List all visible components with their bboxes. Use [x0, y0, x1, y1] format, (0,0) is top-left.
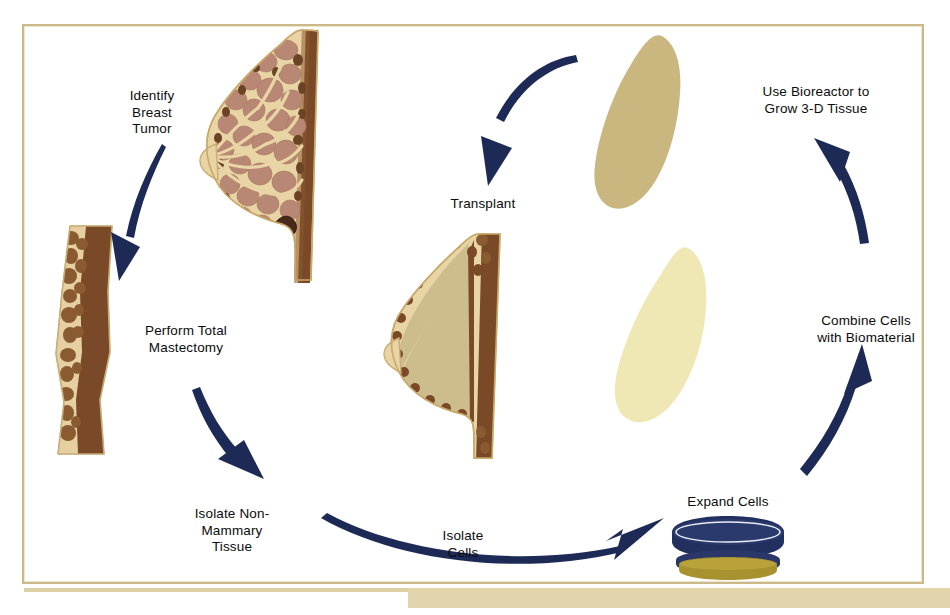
arrow-expand-to-combine [800, 344, 872, 476]
diagram-canvas: Identify Breast Tumor Perform Total Mast… [0, 0, 950, 615]
arrow-bioreactor-to-transplant [481, 55, 578, 186]
label-combine-cells-with-biomaterial: Combine Cells with Biomaterial [796, 313, 936, 346]
label-perform-total-mastectomy: Perform Total Mastectomy [106, 323, 266, 356]
arrow-combine-to-bioreactor [814, 138, 869, 244]
label-isolate-non-mammary-tissue: Isolate Non- Mammary Tissue [172, 506, 292, 556]
label-use-bioreactor: Use Bioreactor to Grow 3-D Tissue [736, 84, 896, 117]
label-transplant: Transplant [428, 196, 538, 213]
label-identify-breast-tumor: Identify Breast Tumor [102, 88, 202, 138]
baseline-strip [408, 588, 950, 608]
label-expand-cells: Expand Cells [670, 494, 786, 511]
arrow-identify-to-mastectomy [111, 144, 166, 281]
label-isolate-cells: Isolate Cells [418, 528, 508, 561]
arrow-mastectomy-to-isolate [192, 387, 264, 479]
